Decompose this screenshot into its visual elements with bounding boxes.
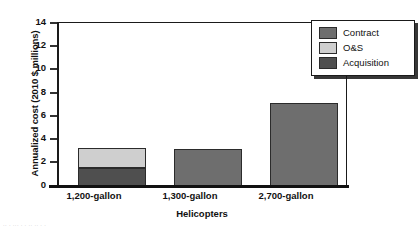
y-tick-label-12: 12	[24, 40, 46, 50]
bar-segment-acquisition[interactable]	[78, 168, 146, 186]
legend-item-os[interactable]: O&S	[319, 41, 408, 55]
y-tick-label-0: 0	[24, 180, 46, 190]
y-tick-2	[50, 161, 57, 163]
x-tick-label-1200-gallon: 1,200-gallon	[42, 190, 146, 201]
bar-segment-contract[interactable]	[270, 103, 338, 186]
x-axis-title: Helicopters	[57, 208, 347, 219]
y-tick-label-2: 2	[24, 156, 46, 166]
bar-group-1300-gallon[interactable]	[174, 149, 242, 187]
bar-segment-contract[interactable]	[174, 149, 242, 187]
legend-swatch-os	[319, 42, 337, 54]
legend: Contract O&S Acquisition	[311, 20, 415, 76]
legend-item-contract[interactable]: Contract	[319, 26, 408, 40]
bar-group-2700-gallon[interactable]	[270, 103, 338, 186]
y-tick-label-14: 14	[24, 17, 46, 27]
y-tick-4	[50, 138, 57, 140]
legend-item-acquisition[interactable]: Acquisition	[319, 56, 408, 70]
y-tick-label-6: 6	[24, 110, 46, 120]
legend-label-contract: Contract	[343, 28, 379, 38]
y-tick-label-8: 8	[24, 87, 46, 97]
y-tick-6	[50, 115, 57, 117]
legend-label-acquisition: Acquisition	[343, 58, 389, 68]
bar-chart-figure: Annualized cost (2010 $ millions) 0 2 4 …	[0, 0, 419, 235]
legend-swatch-contract	[319, 27, 337, 39]
bars-layer	[57, 22, 347, 186]
x-tick-label-1300-gallon: 1,300-gallon	[138, 190, 242, 201]
bar-group-1200-gallon[interactable]	[78, 148, 146, 186]
y-tick-14	[50, 22, 57, 24]
y-tick-12	[50, 45, 57, 47]
bar-segment-os[interactable]	[78, 148, 146, 169]
legend-label-os: O&S	[343, 43, 363, 53]
y-tick-10	[50, 68, 57, 70]
x-axis-line	[49, 185, 349, 188]
y-axis-title: Annualized cost (2010 $ millions)	[29, 9, 40, 199]
y-tick-label-10: 10	[24, 63, 46, 73]
x-tick-label-2700-gallon: 2,700-gallon	[234, 190, 338, 201]
y-tick-label-4: 4	[24, 133, 46, 143]
legend-swatch-acquisition	[319, 57, 337, 69]
y-tick-8	[50, 92, 57, 94]
footnote-text: ·· · ··· · · ·· ·· · ·	[3, 222, 113, 229]
